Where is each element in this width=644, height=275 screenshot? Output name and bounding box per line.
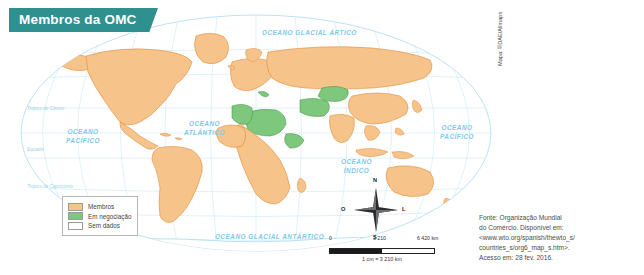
ocean-label-pacific-west: OCEANO PACÍFICO: [66, 128, 100, 145]
source-line-3: <www.wto.org/spanish/thewto_s/: [479, 233, 639, 243]
scale-tick-labels: 0 3 210 6 420 km: [329, 241, 435, 248]
latitude-label-tropic-capricorn: Trópico de Capricórnio: [27, 184, 73, 189]
map-credit: Mapa: ©DAE/Allmaps: [497, 12, 503, 66]
scale-label-max: 6 420 km: [417, 235, 438, 241]
legend-swatch-no-data: [68, 222, 83, 230]
page-title-text: Membros da OMC: [19, 12, 137, 27]
legend-label-members: Membros: [88, 203, 114, 210]
ocean-label-indian: OCEANO ÍNDICO: [341, 158, 372, 175]
legend-label-no-data: Sem dados: [88, 222, 120, 229]
source-line-5: Acesso em: 28 fev. 2016.: [479, 253, 639, 263]
legend-item-negotiating: Em negociação: [68, 212, 131, 220]
latitude-label-tropic-cancer: Trópico de Câncer: [27, 106, 64, 111]
ocean-label-pacific-east: OCEANO PACÍFICO: [440, 124, 474, 141]
legend-item-no-data: Sem dados: [68, 222, 131, 230]
source-citation: Fonte: Organização Mundial do Comércio. …: [479, 213, 639, 263]
map-figure: OCEANO GLACIAL ÁRTICO OCEANO PACÍFICO OC…: [0, 0, 644, 275]
page-title: Membros da OMC: [9, 8, 149, 32]
compass-rose: N S L O: [348, 182, 404, 238]
legend-swatch-members: [68, 203, 83, 211]
source-line-4: countries_s/org6_map_s.htm>.: [479, 243, 639, 253]
source-line-2: do Comércio. Disponível em:: [479, 223, 639, 233]
scale-bar: 0 3 210 6 420 km 1 cm = 3 210 km: [329, 241, 435, 262]
scale-label-mid: 3 210: [373, 235, 386, 241]
scale-label-min: 0: [329, 235, 332, 241]
legend-item-members: Membros: [68, 203, 131, 211]
legend-label-negotiating: Em negociação: [88, 213, 131, 220]
compass-label-east: L: [402, 206, 405, 212]
ocean-label-arctic: OCEANO GLACIAL ÁRTICO: [262, 29, 357, 38]
latitude-label-equator: Equador: [27, 147, 44, 152]
ocean-label-atlantic: OCEANO ATLÂNTICO: [184, 120, 225, 137]
scale-bar-graphic: [329, 248, 435, 254]
compass-icon: [348, 182, 404, 238]
scale-segment-1: [330, 249, 382, 253]
legend-swatch-negotiating: [68, 212, 83, 220]
source-line-1: Fonte: Organização Mundial: [479, 213, 639, 223]
scale-equivalence: 1 cm = 3 210 km: [329, 256, 435, 262]
scale-segment-2: [382, 249, 434, 253]
map-legend: Membros Em negociação Sem dados: [62, 196, 138, 236]
compass-label-north: N: [373, 177, 377, 183]
compass-label-west: O: [341, 206, 345, 212]
ocean-label-antarctic: OCEANO GLACIAL ANTÁRTICO: [215, 233, 324, 242]
